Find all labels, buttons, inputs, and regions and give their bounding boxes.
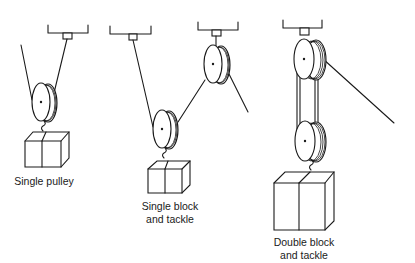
pulley-wheel-icon bbox=[295, 121, 326, 162]
label-double-block-tackle: Double block and tackle bbox=[266, 236, 342, 262]
single-block-tackle-figure bbox=[110, 22, 248, 193]
rope bbox=[21, 45, 32, 100]
weight-box-icon bbox=[274, 172, 334, 230]
label-line-1: Double block bbox=[266, 236, 342, 249]
label-line-2: and tackle bbox=[266, 249, 342, 262]
rope bbox=[322, 58, 394, 123]
pulley-wheel-icon bbox=[294, 39, 326, 80]
pulley-wheel-icon bbox=[32, 83, 57, 122]
pulley-wheel-icon bbox=[204, 45, 230, 84]
hook-icon bbox=[42, 121, 46, 131]
ceiling-mount-icon bbox=[198, 22, 238, 36]
pulley-wheel-icon bbox=[153, 110, 178, 149]
rope bbox=[133, 40, 153, 127]
rope bbox=[54, 39, 67, 93]
weight-box-icon bbox=[148, 161, 190, 193]
label-line-1: Single block bbox=[135, 200, 205, 213]
hook-icon bbox=[310, 160, 314, 170]
pulley-diagram bbox=[0, 0, 415, 263]
single-pulley-figure bbox=[21, 25, 88, 167]
ceiling-mount-icon bbox=[283, 20, 322, 35]
label-single-block-tackle: Single block and tackle bbox=[135, 200, 205, 226]
rope bbox=[228, 72, 248, 112]
hook-icon bbox=[163, 148, 167, 158]
label-text: Single pulley bbox=[14, 175, 74, 187]
ceiling-mount-icon bbox=[48, 25, 88, 39]
weight-box-icon bbox=[25, 132, 69, 167]
ceiling-mount-icon bbox=[110, 26, 151, 40]
label-single-pulley: Single pulley bbox=[12, 175, 76, 188]
label-line-2: and tackle bbox=[135, 213, 205, 226]
rope bbox=[178, 80, 205, 122]
double-block-tackle-figure bbox=[274, 20, 394, 230]
